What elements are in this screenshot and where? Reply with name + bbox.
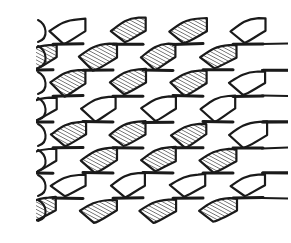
mesh-node-bar (83, 173, 113, 174)
right-edge-stub (262, 95, 288, 96)
mesh-node-bar (143, 70, 173, 71)
right-edge-stub (262, 173, 288, 174)
mesh-diagram-svg (0, 0, 291, 243)
mesh-node-bar (113, 198, 143, 199)
right-margin-mask (288, 0, 291, 243)
mesh-node-bar (53, 44, 83, 45)
left-margin-mask (0, 0, 36, 243)
mesh-node-bar (233, 96, 263, 97)
bottom-margin-mask (0, 236, 291, 243)
mesh-figure (0, 0, 291, 243)
mesh-node-bar (53, 96, 83, 97)
mesh-node-bar (173, 44, 203, 45)
mesh-node-bar (83, 122, 113, 123)
right-edge-stub (262, 147, 288, 148)
mesh-node-bar (173, 96, 203, 97)
right-edge-stub (262, 198, 288, 199)
top-margin-mask (0, 0, 291, 6)
